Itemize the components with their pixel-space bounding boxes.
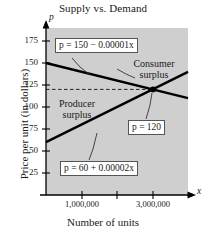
supply-equation-callout: p = 60 + 0.00002x [60,161,138,176]
equilibrium-callout-leader-line [146,93,152,119]
y-tick-label-75: 75 [12,124,38,133]
x-tick-label-1000000: 1,000,000 [52,200,112,209]
demand-equation-callout: p = 150 − 0.00001x [55,38,138,53]
y-tick-label-25: 25 [12,168,38,177]
equilibrium-price-callout: p = 120 [128,120,165,135]
consumer-surplus-label: Consumer surplus [118,59,190,80]
y-tick-label-150: 150 [12,58,38,67]
x-axis-arrow [188,192,197,199]
x-axis-symbol: x [197,186,201,196]
producer-surplus-label: Producer surplus [46,99,108,120]
x-tick-label-3000000: 3,000,000 [123,200,183,209]
y-tick-label-125: 125 [12,80,38,89]
y-axis-symbol: p [49,12,54,22]
y-tick-label-50: 50 [12,146,38,155]
equilibrium-point-marker [150,87,156,93]
supply-demand-figure: Supply vs. Demand Price per unit (in dol… [0,0,206,237]
y-tick-label-100: 100 [12,102,38,111]
x-axis-title: Number of units [0,216,206,228]
supply-callout-leader-line [89,133,97,160]
plot-area: 175 150 125 100 75 50 25 1,000,000 3,000… [0,0,206,212]
y-tick-label-175: 175 [12,36,38,45]
